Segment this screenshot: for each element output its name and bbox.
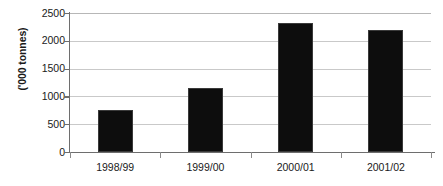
bar (368, 30, 403, 152)
x-axis-category-label: 1998/99 (70, 161, 160, 173)
plot-area (70, 13, 431, 152)
y-axis-tick-label: 500 (21, 119, 65, 130)
y-axis-tick-label: 1000 (21, 91, 65, 102)
x-axis-tick-mark (160, 152, 161, 158)
bar (188, 88, 223, 152)
x-axis-tick-mark (70, 152, 71, 158)
y-axis-tick-labels: 05001000150020002500 (18, 0, 65, 186)
x-axis-tick-mark (431, 152, 432, 158)
x-axis-category-label: 2000/01 (251, 161, 341, 173)
y-axis-tick-mark (64, 96, 70, 97)
y-axis-tick-mark (64, 69, 70, 70)
plot-top-border (70, 13, 431, 14)
y-axis-tick-label: 1500 (21, 63, 65, 74)
y-axis-tick-mark (64, 124, 70, 125)
y-axis-tick-label: 2000 (21, 35, 65, 46)
y-axis-tick-label: 0 (21, 147, 65, 158)
x-axis-category-label: 2001/02 (341, 161, 431, 173)
x-axis-category-label: 1999/00 (160, 161, 250, 173)
bar (98, 110, 133, 152)
x-axis-tick-mark (341, 152, 342, 158)
y-axis-tick-label: 2500 (21, 8, 65, 19)
y-axis-line (69, 12, 70, 153)
bar-chart: ('000 tonnes) 05001000150020002500 1998/… (0, 0, 443, 186)
y-axis-tick-mark (64, 41, 70, 42)
bar (278, 23, 313, 152)
x-axis-tick-mark (251, 152, 252, 158)
y-axis-tick-mark (64, 13, 70, 14)
